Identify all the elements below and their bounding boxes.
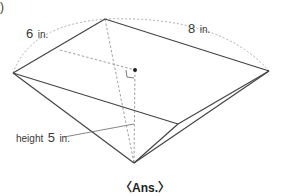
label-height-prefix: height (16, 133, 43, 144)
right-angle-marker (126, 70, 134, 78)
label-8in-unit: in. (200, 24, 211, 35)
label-height-value: 5 (48, 130, 55, 145)
answer-label: 〈Ans.〉 (120, 178, 170, 195)
label-height-unit: in. (59, 133, 70, 144)
edge-top-right (105, 19, 269, 71)
answer-label-text: 〈Ans.〉 (120, 181, 170, 195)
height-leader-line (64, 124, 134, 137)
height-line (134, 70, 135, 163)
edge-inner-right (178, 71, 269, 124)
label-6in-value: 6 (26, 26, 33, 41)
label-height: height 5 in. (16, 128, 70, 146)
label-8in-value: 8 (188, 21, 195, 36)
edge-bottom-right-b (134, 124, 178, 163)
edge-left-inner (13, 73, 178, 124)
label-8in: 8 in. (188, 19, 210, 37)
label-6in-unit: in. (38, 29, 49, 40)
hidden-edge-top-to-bottom (105, 19, 134, 163)
hidden-edge-left-to-center (60, 50, 135, 70)
edge-left-bottom (13, 73, 134, 163)
label-6in: 6 in. (26, 24, 48, 42)
center-point (133, 68, 137, 72)
